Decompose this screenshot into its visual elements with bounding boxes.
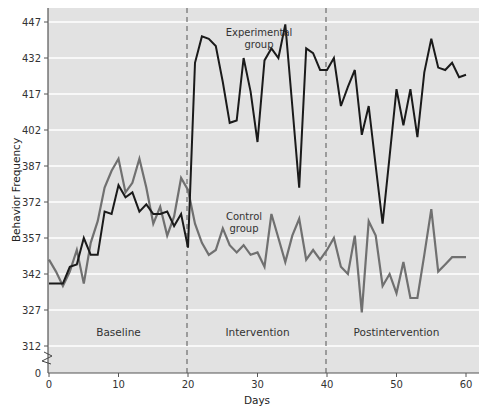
y-tick-label: 342 — [22, 269, 41, 280]
x-tick-label: 10 — [112, 379, 125, 390]
phase-label-baseline: Baseline — [96, 326, 141, 338]
experimental-group-label: Experimental — [226, 27, 293, 38]
y-origin-label: 0 — [35, 368, 41, 379]
x-tick-label: 20 — [182, 379, 195, 390]
phase-label-postintervention: Postintervention — [354, 326, 440, 338]
x-tick-label: 50 — [390, 379, 403, 390]
x-axis-title: Days — [244, 394, 270, 406]
x-tick-label: 40 — [321, 379, 334, 390]
y-tick-label: 357 — [22, 233, 41, 244]
x-tick-label: 0 — [46, 379, 52, 390]
y-tick-label: 327 — [22, 305, 41, 316]
behavior-frequency-chart: BaselineInterventionPostintervention Exp… — [0, 0, 492, 413]
experimental-group-label: group — [244, 39, 273, 50]
y-tick-label: 372 — [22, 197, 41, 208]
y-ticks: 312327342357372387402417432447 — [22, 17, 48, 352]
y-tick-label: 312 — [22, 341, 41, 352]
y-tick-label: 447 — [22, 17, 41, 28]
x-ticks: 0102030405060 — [46, 373, 473, 390]
y-tick-label: 417 — [22, 89, 41, 100]
x-tick-label: 60 — [460, 379, 473, 390]
y-axis-title: Behavior Frequency — [10, 138, 22, 242]
y-tick-label: 402 — [22, 125, 41, 136]
control-group-label: Control — [226, 211, 262, 222]
y-tick-label: 432 — [22, 53, 41, 64]
x-tick-label: 30 — [251, 379, 264, 390]
y-tick-label: 387 — [22, 161, 41, 172]
phase-label-intervention: Intervention — [225, 326, 289, 338]
control-group-label: group — [229, 223, 258, 234]
